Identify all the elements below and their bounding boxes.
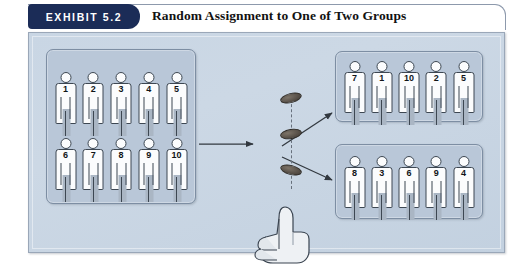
person-head-icon xyxy=(171,72,182,83)
person-head-icon xyxy=(60,72,71,83)
person-figure: 1 xyxy=(371,61,392,113)
person-arm-right xyxy=(153,97,154,119)
person-figure: 4 xyxy=(138,72,159,124)
person-arm-right xyxy=(97,163,98,185)
person-leg-split xyxy=(121,177,122,202)
person-leg-split xyxy=(148,177,149,202)
person-number: 2 xyxy=(434,73,439,83)
person-figure: 6 xyxy=(55,138,76,190)
person-arm-left xyxy=(88,97,89,119)
person-figure: 1 xyxy=(55,72,76,124)
person-arm-left xyxy=(172,97,173,119)
person-arm-left xyxy=(172,163,173,185)
person-arm-right xyxy=(181,97,182,119)
person-number: 8 xyxy=(352,168,357,178)
person-leg-split xyxy=(381,195,382,220)
person-arm-left xyxy=(404,181,405,203)
person-figure: 5 xyxy=(453,61,474,113)
person-arm-left xyxy=(144,97,145,119)
person-arm-left xyxy=(431,86,432,108)
thumbs-up-hand-icon xyxy=(251,205,319,267)
person-arm-left xyxy=(350,181,351,203)
coin-flip-randomizer xyxy=(275,93,309,189)
person-head-icon xyxy=(116,72,127,83)
person-figure: 8 xyxy=(111,138,132,190)
diagram-panel: 1 2 xyxy=(28,32,505,253)
person-arm-left xyxy=(116,97,117,119)
person-number: 2 xyxy=(91,84,96,94)
exhibit-title: Random Assignment to One of Two Groups xyxy=(152,8,406,24)
coin-icon xyxy=(279,127,302,140)
person-figure: 2 xyxy=(83,72,104,124)
person-leg-split xyxy=(176,177,177,202)
person-arm-right xyxy=(70,97,71,119)
person-arm-right xyxy=(125,163,126,185)
person-number: 4 xyxy=(461,168,466,178)
person-leg-split xyxy=(436,100,437,125)
person-figure: 7 xyxy=(83,138,104,190)
person-number: 8 xyxy=(118,150,123,160)
person-figure: 9 xyxy=(426,156,447,208)
person-arm-right xyxy=(359,181,360,203)
person-head-icon xyxy=(349,156,360,167)
person-arm-left xyxy=(377,86,378,108)
person-head-icon xyxy=(88,72,99,83)
person-number: 5 xyxy=(174,84,179,94)
person-head-icon xyxy=(458,61,469,72)
person-arm-right xyxy=(181,163,182,185)
person-number: 4 xyxy=(146,84,151,94)
person-arm-left xyxy=(350,86,351,108)
person-head-icon xyxy=(404,61,415,72)
exhibit-badge: EXHIBIT 5.2 xyxy=(28,4,140,29)
person-arm-right xyxy=(70,163,71,185)
person-head-icon xyxy=(116,138,127,149)
person-leg-split xyxy=(121,111,122,136)
person-figure: 10 xyxy=(166,138,187,190)
person-arm-left xyxy=(459,86,460,108)
person-leg-split xyxy=(381,100,382,125)
person-arm-right xyxy=(413,86,414,108)
person-arm-left xyxy=(377,181,378,203)
person-head-icon xyxy=(349,61,360,72)
person-figure: 10 xyxy=(399,61,420,113)
person-arm-right xyxy=(468,86,469,108)
person-arm-right xyxy=(440,86,441,108)
person-number: 9 xyxy=(146,150,151,160)
person-leg-split xyxy=(93,111,94,136)
person-head-icon xyxy=(431,156,442,167)
person-head-icon xyxy=(431,61,442,72)
person-arm-right xyxy=(440,181,441,203)
person-number: 1 xyxy=(63,84,68,94)
person-head-icon xyxy=(143,72,154,83)
person-arm-left xyxy=(404,86,405,108)
person-leg-split xyxy=(65,177,66,202)
person-arm-left xyxy=(88,163,89,185)
person-leg-split xyxy=(354,195,355,220)
person-number: 7 xyxy=(91,150,96,160)
person-head-icon xyxy=(171,138,182,149)
person-arm-right xyxy=(359,86,360,108)
person-arm-left xyxy=(431,181,432,203)
group-a-row: 7 1 xyxy=(336,61,482,113)
person-head-icon xyxy=(376,61,387,72)
person-head-icon xyxy=(88,138,99,149)
person-arm-right xyxy=(97,97,98,119)
person-figure: 5 xyxy=(166,72,187,124)
person-number: 1 xyxy=(379,73,384,83)
participant-pool-box: 1 2 xyxy=(46,49,196,204)
person-leg-split xyxy=(148,111,149,136)
person-leg-split xyxy=(463,100,464,125)
person-arm-left xyxy=(459,181,460,203)
person-arm-left xyxy=(116,163,117,185)
person-figure: 3 xyxy=(111,72,132,124)
person-number: 6 xyxy=(63,150,68,160)
exhibit-badge-label: EXHIBIT 5.2 xyxy=(46,11,123,23)
person-head-icon xyxy=(60,138,71,149)
person-head-icon xyxy=(458,156,469,167)
pool-row-bottom: 6 7 xyxy=(47,138,195,190)
person-arm-right xyxy=(413,181,414,203)
person-number: 3 xyxy=(118,84,123,94)
person-arm-right xyxy=(386,86,387,108)
person-number: 9 xyxy=(434,168,439,178)
person-arm-right xyxy=(468,181,469,203)
